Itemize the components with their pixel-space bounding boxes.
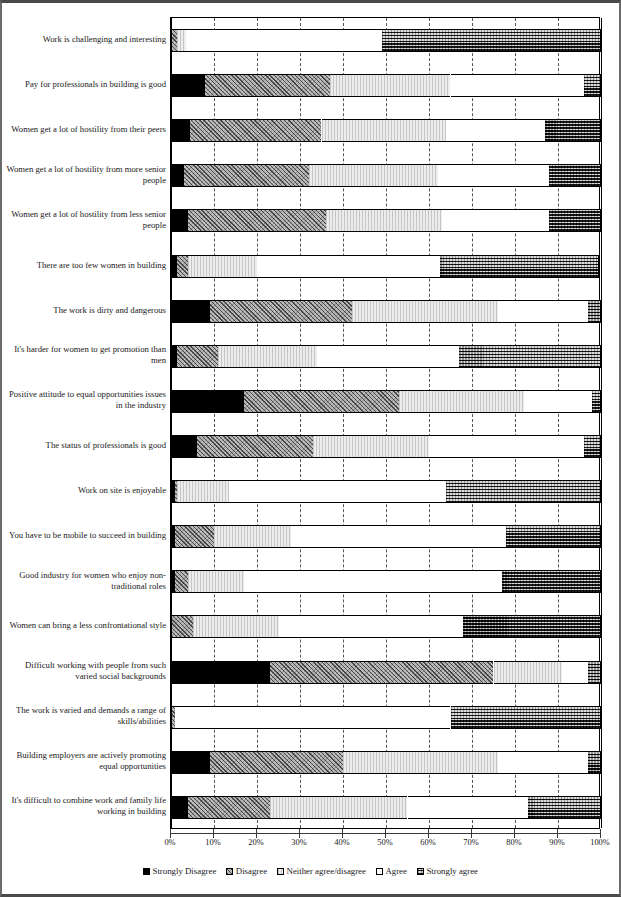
category-label-pay-for-professionals-in-building-is-good: Pay for professionals in building is goo… bbox=[6, 79, 166, 90]
legend-item-agree[interactable]: Agree bbox=[376, 866, 407, 876]
bar-segment-neither-agree-disagree bbox=[188, 570, 244, 593]
category-label-positive-attitude-to-equal-opportunities-issue: Positive attitude to equal opportunities… bbox=[6, 389, 166, 411]
x-tick-label-90pct: 90% bbox=[549, 838, 564, 847]
bar-segment-strongly-agree bbox=[584, 435, 601, 458]
bar-row-women-get-a-lot-of-hostility-from-more-senior- bbox=[171, 153, 599, 198]
stacked-bar bbox=[171, 255, 599, 278]
bar-segment-strongly-agree bbox=[545, 119, 601, 142]
bar-segment-agree bbox=[446, 119, 545, 142]
x-tick-label-30pct: 30% bbox=[291, 838, 306, 847]
stacked-bar-chart: Work is challenging and interestingPay f… bbox=[0, 0, 621, 897]
bar-segment-neither-agree-disagree bbox=[177, 29, 186, 52]
x-tick-label-70pct: 70% bbox=[463, 838, 478, 847]
bar-segment-disagree bbox=[270, 661, 494, 684]
bar-segment-disagree bbox=[175, 570, 188, 593]
bar-row-the-work-is-varied-and-demands-a-range-of-skil bbox=[171, 695, 599, 740]
bar-segment-strongly-disagree bbox=[171, 661, 270, 684]
bar-segment-disagree bbox=[210, 751, 343, 774]
bar-segment-disagree bbox=[244, 390, 399, 413]
x-tick-0pct bbox=[170, 829, 171, 838]
bar-segment-neither-agree-disagree bbox=[313, 435, 429, 458]
x-tick-40pct bbox=[342, 829, 343, 838]
bar-segment-disagree bbox=[177, 255, 188, 278]
bar-segment-strongly-disagree bbox=[171, 435, 197, 458]
x-tick-20pct bbox=[256, 829, 257, 838]
bar-segment-agree bbox=[244, 570, 502, 593]
bar-row-work-is-challenging-and-interesting bbox=[171, 18, 599, 63]
bar-row-the-work-is-dirty-and-dangerous bbox=[171, 289, 599, 334]
bar-segment-neither-agree-disagree bbox=[309, 164, 438, 187]
x-axis-line bbox=[170, 833, 600, 834]
bar-segment-strongly-agree bbox=[506, 525, 601, 548]
category-label-the-work-is-varied-and-demands-a-range-of-skil: The work is varied and demands a range o… bbox=[6, 705, 166, 727]
bar-segment-strongly-agree bbox=[549, 164, 601, 187]
x-tick-label-0pct: 0% bbox=[164, 838, 175, 847]
bar-segment-strongly-agree bbox=[440, 255, 599, 278]
category-label-building-employers-are-actively-promoting-equa: Building employers are actively promotin… bbox=[6, 750, 166, 772]
bar-segment-disagree bbox=[175, 525, 214, 548]
stacked-bar bbox=[171, 345, 599, 368]
category-label-difficult-working-with-people-from-such-varied: Difficult working with people from such … bbox=[6, 660, 166, 682]
bar-segment-strongly-disagree bbox=[171, 390, 244, 413]
x-tick-label-100pct: 100% bbox=[590, 838, 610, 847]
bar-segment-disagree bbox=[171, 615, 193, 638]
bar-row-good-industry-for-women-who-enjoy-non-traditio bbox=[171, 559, 599, 604]
stacked-bar bbox=[171, 29, 599, 52]
stacked-bar bbox=[171, 390, 599, 413]
bar-segment-neither-agree-disagree bbox=[343, 751, 498, 774]
stacked-bar bbox=[171, 570, 599, 593]
bar-segment-neither-agree-disagree bbox=[330, 74, 450, 97]
x-tick-10pct bbox=[213, 829, 214, 838]
bar-segment-agree bbox=[451, 74, 584, 97]
stacked-bar bbox=[171, 661, 599, 684]
bar-segment-agree bbox=[442, 209, 550, 232]
legend-item-disagree[interactable]: Disagree bbox=[226, 866, 267, 876]
bar-segment-neither-agree-disagree bbox=[270, 796, 408, 819]
stacked-bar bbox=[171, 796, 599, 819]
bar-segment-agree bbox=[257, 255, 440, 278]
x-tick-90pct bbox=[557, 829, 558, 838]
bar-segment-agree bbox=[498, 300, 588, 323]
bar-segment-strongly-agree bbox=[584, 74, 601, 97]
bar-row-you-have-to-be-mobile-to-succeed-in-building bbox=[171, 514, 599, 559]
x-tick-100pct bbox=[600, 829, 601, 838]
stacked-bar bbox=[171, 480, 599, 503]
hatch-swatch bbox=[226, 868, 233, 875]
category-label-work-is-challenging-and-interesting: Work is challenging and interesting bbox=[6, 34, 166, 45]
legend-item-strongly-agree[interactable]: Strongly agree bbox=[417, 866, 478, 876]
bar-row-women-can-bring-a-less-confrontational-style bbox=[171, 604, 599, 649]
white-swatch bbox=[277, 868, 284, 875]
bar-row-women-get-a-lot-of-hostility-from-their-peers bbox=[171, 108, 599, 153]
x-tick-50pct bbox=[385, 829, 386, 838]
bar-segment-strongly-agree bbox=[451, 706, 602, 729]
category-labels-axis: Work is challenging and interestingPay f… bbox=[6, 17, 166, 829]
bar-segment-strongly-disagree bbox=[171, 300, 210, 323]
bar-segment-strongly-agree bbox=[528, 796, 601, 819]
bar-segment-agree bbox=[279, 615, 464, 638]
category-label-women-get-a-lot-of-hostility-from-their-peers: Women get a lot of hostility from their … bbox=[6, 124, 166, 135]
x-tick-30pct bbox=[299, 829, 300, 838]
category-label-women-get-a-lot-of-hostility-from-less-senior-: Women get a lot of hostility from less s… bbox=[6, 209, 166, 231]
bar-segment-neither-agree-disagree bbox=[214, 525, 291, 548]
category-label-you-have-to-be-mobile-to-succeed-in-building: You have to be mobile to succeed in buil… bbox=[6, 530, 166, 541]
bar-segment-neither-agree-disagree bbox=[326, 209, 442, 232]
stacked-bar bbox=[171, 119, 599, 142]
stacked-bar bbox=[171, 751, 599, 774]
x-tick-70pct bbox=[471, 829, 472, 838]
bar-segment-strongly-agree bbox=[382, 29, 601, 52]
bar-segment-neither-agree-disagree bbox=[352, 300, 498, 323]
bar-segment-neither-agree-disagree bbox=[193, 615, 279, 638]
legend-item-strongly-disagree[interactable]: Strongly Disagree bbox=[143, 866, 216, 876]
legend-item-neither-agree-disagree[interactable]: Neither agree/disagree bbox=[277, 866, 366, 876]
bar-segment-disagree bbox=[188, 209, 326, 232]
bar-row-it-s-harder-for-women-to-get-promotion-than-me bbox=[171, 334, 599, 379]
bar-segment-neither-agree-disagree bbox=[494, 661, 563, 684]
category-label-women-can-bring-a-less-confrontational-style: Women can bring a less confrontational s… bbox=[6, 620, 166, 631]
category-label-women-get-a-lot-of-hostility-from-more-senior-: Women get a lot of hostility from more s… bbox=[6, 164, 166, 186]
bar-segment-strongly-agree bbox=[502, 570, 601, 593]
bar-row-women-get-a-lot-of-hostility-from-less-senior- bbox=[171, 198, 599, 243]
bar-segment-agree bbox=[317, 345, 459, 368]
bar-segment-disagree bbox=[177, 345, 218, 368]
bar-row-difficult-working-with-people-from-such-varied bbox=[171, 650, 599, 695]
bar-segment-neither-agree-disagree bbox=[399, 390, 524, 413]
